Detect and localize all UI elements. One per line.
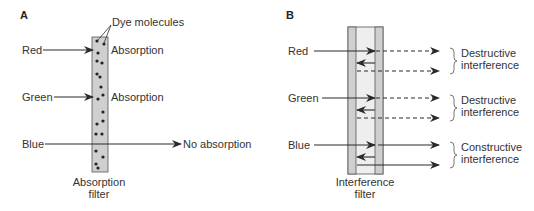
result-blue-line2: interference xyxy=(461,153,519,165)
ray-label-blue: Blue xyxy=(22,138,44,150)
result-green: Absorption xyxy=(111,91,164,103)
filter-right-plate xyxy=(375,27,383,174)
filter-left-plate xyxy=(348,27,356,174)
result-blue: No absorption xyxy=(183,138,252,150)
ray-label-red: Red xyxy=(22,44,42,56)
ray-label-green: Green xyxy=(288,92,319,104)
absorption-filter-label: Absorption xyxy=(73,176,126,188)
panel-b: B Red Destructive interference Green Des… xyxy=(286,9,522,200)
filter-diagram: A Dye molecules Red Absorption Green A xyxy=(0,0,534,211)
absorption-filter-label-2: filter xyxy=(89,188,110,200)
ray-label-blue: Blue xyxy=(288,139,310,151)
result-blue-line1: Constructive xyxy=(461,141,522,153)
panel-a: A Dye molecules Red Absorption Green A xyxy=(20,9,252,200)
interference-filter-label-2: filter xyxy=(355,188,376,200)
absorption-filter xyxy=(92,37,108,172)
brace-icon xyxy=(450,142,457,168)
panel-b-label: B xyxy=(286,9,294,21)
brace-icon xyxy=(450,95,457,121)
ray-label-red: Red xyxy=(288,45,308,57)
ray-label-green: Green xyxy=(22,91,53,103)
result-red-line2: interference xyxy=(461,59,519,71)
dye-molecules-label: Dye molecules xyxy=(112,16,185,28)
interference-filter-label: Interference xyxy=(336,176,395,188)
result-red-line1: Destructive xyxy=(461,47,516,59)
result-green-line1: Destructive xyxy=(461,94,516,106)
result-red: Absorption xyxy=(111,44,164,56)
brace-icon xyxy=(450,48,457,74)
result-green-line2: interference xyxy=(461,106,519,118)
panel-a-label: A xyxy=(20,9,28,21)
